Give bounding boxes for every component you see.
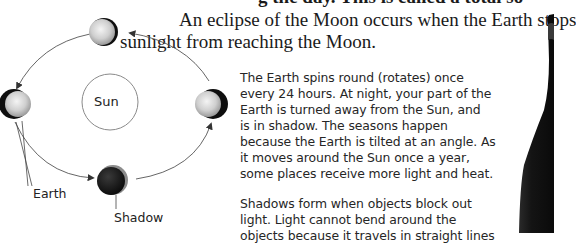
paragraph-shadows: Shadows form when objects block out ligh… bbox=[240, 196, 520, 244]
text-line: it moves around the Sun once a year, bbox=[240, 150, 470, 165]
text-line: Shadows form when objects block out bbox=[240, 196, 472, 211]
earth-label: Earth bbox=[33, 186, 67, 201]
sun-label: Sun bbox=[94, 94, 119, 109]
orbit-arc-right-top bbox=[130, 33, 209, 81]
text-line: is in shadow. The seasons happen bbox=[240, 118, 448, 133]
earth-leader-line-1 bbox=[16, 122, 32, 186]
text-line: light. Light cannot bend around the bbox=[240, 212, 456, 227]
moon-left bbox=[0, 89, 31, 119]
text-line: Earth is turned away from the Sun, and bbox=[240, 102, 480, 117]
moon-top bbox=[89, 18, 118, 46]
partial-top-line: g the day. This is called a total so bbox=[258, 0, 523, 7]
body-text: The Earth spins round (rotates) once eve… bbox=[240, 70, 520, 247]
orbit-arc-bottom-right bbox=[136, 124, 211, 179]
text-line: every 24 hours. At night, your part of t… bbox=[240, 86, 491, 101]
shadow-label: Shadow bbox=[114, 210, 163, 225]
text-line: some places receive more light and heat. bbox=[240, 166, 493, 181]
orbit-arc-top-left bbox=[17, 34, 90, 88]
moon-right bbox=[195, 89, 228, 119]
earth-leader-line-2 bbox=[22, 121, 28, 186]
moon-shadow bbox=[97, 165, 128, 195]
text-line: because the Earth is tilted at an angle.… bbox=[240, 134, 496, 149]
paragraph-rotation: The Earth spins round (rotates) once eve… bbox=[240, 70, 520, 182]
text-line: objects because it travels in straight l… bbox=[240, 228, 495, 243]
text-line: The Earth spins round (rotates) once bbox=[240, 70, 464, 85]
